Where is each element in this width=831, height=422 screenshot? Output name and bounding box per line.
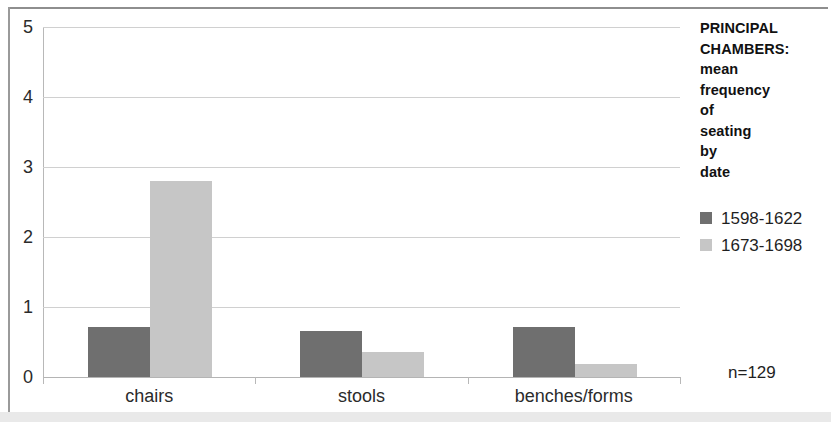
gridline	[43, 237, 680, 238]
bar-chairs-1673-1698	[150, 181, 212, 377]
gridline	[43, 307, 680, 308]
x-axis-label-chairs: chairs	[125, 387, 173, 405]
y-axis-tick-label: 3	[23, 158, 33, 176]
chart-title-line: mean	[700, 59, 828, 80]
legend-entries: 1598-16221673-1698	[700, 205, 828, 259]
frame-left-border	[8, 7, 10, 412]
chart-title-line: seating by	[700, 121, 828, 162]
legend-item-1598-1622[interactable]: 1598-1622	[700, 205, 828, 232]
category-tick	[680, 377, 681, 384]
legend-swatch-icon	[700, 212, 712, 224]
x-axis-label-stools: stools	[338, 387, 385, 405]
chart-title-line: CHAMBERS:	[700, 39, 828, 60]
gridline	[43, 167, 680, 168]
plot-area: 012345 chairsstoolsbenches/forms	[43, 27, 680, 377]
gridline	[43, 27, 680, 28]
y-axis-tick-label: 0	[23, 368, 33, 386]
y-axis-tick-label: 1	[23, 298, 33, 316]
legend-panel: PRINCIPAL CHAMBERS: mean frequency of se…	[700, 18, 828, 259]
chart-title-line: PRINCIPAL	[700, 18, 828, 39]
bar-stools-1598-1622	[300, 331, 362, 377]
y-axis-tick-label: 4	[23, 88, 33, 106]
frame-top-border	[8, 7, 828, 9]
category-tick	[255, 377, 256, 384]
bar-stools-1673-1698	[362, 352, 424, 377]
bar-benches-forms-1598-1622	[513, 327, 575, 377]
chart-title: PRINCIPAL CHAMBERS: mean frequency of se…	[700, 18, 828, 183]
frame-bottom-band	[0, 412, 831, 422]
y-axis-tick-label: 5	[23, 18, 33, 36]
category-tick	[43, 377, 44, 384]
gridline	[43, 377, 680, 378]
chart-title-line: frequency of	[700, 80, 828, 121]
y-axis-tick-label: 2	[23, 228, 33, 246]
legend-item-label: 1673-1698	[721, 237, 802, 254]
bar-benches-forms-1673-1698	[575, 364, 637, 377]
gridline	[43, 97, 680, 98]
chart-title-line: date	[700, 162, 828, 183]
legend-item-label: 1598-1622	[721, 210, 802, 227]
x-axis-label-benches-forms: benches/forms	[515, 387, 633, 405]
legend-item-1673-1698[interactable]: 1673-1698	[700, 232, 828, 259]
category-tick	[468, 377, 469, 384]
bar-chairs-1598-1622	[88, 327, 150, 377]
legend-swatch-icon	[700, 239, 712, 251]
y-axis-line	[43, 27, 44, 377]
chart-screenshot: 012345 chairsstoolsbenches/forms PRINCIP…	[0, 0, 831, 422]
sample-size-annotation: n=129	[728, 363, 776, 383]
